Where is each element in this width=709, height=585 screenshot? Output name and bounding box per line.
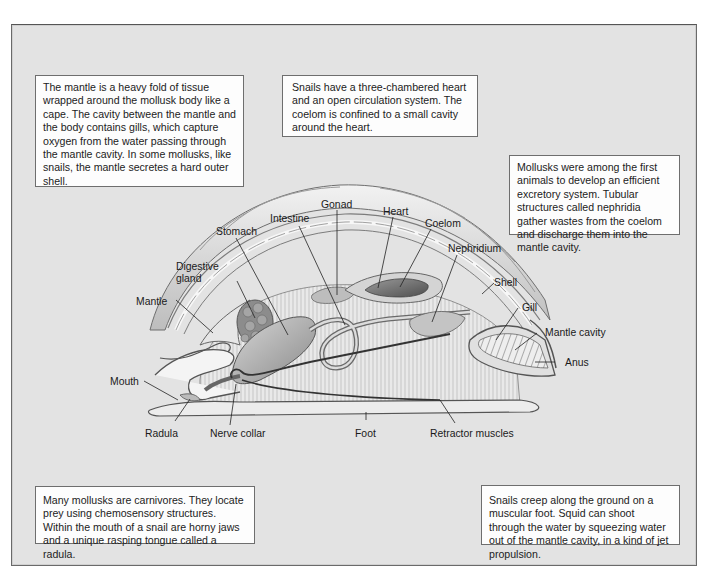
callout-excretory-system: Mollusks were among the first animals to… (509, 155, 680, 235)
label-coelom: Coelom (425, 218, 461, 229)
callout-mantle: The mantle is a heavy fold of tissue wra… (35, 75, 244, 187)
label-mantle: Mantle (136, 296, 167, 307)
label-heart: Heart (383, 206, 409, 217)
label-radula: Radula (145, 428, 178, 439)
callout-carnivore-radula: Many mollusks are carnivores. They locat… (35, 486, 255, 544)
callout-heart: Snails have a three-chambered heart and … (282, 75, 478, 137)
label-nerve-collar: Nerve collar (210, 428, 266, 439)
label-gonad: Gonad (321, 199, 352, 210)
label-mantle-cavity: Mantle cavity (545, 327, 606, 338)
label-retractor-muscles: Retractor muscles (430, 428, 514, 439)
label-mouth: Mouth (110, 376, 139, 387)
callout-foot-locomotion: Snails creep along the ground on a muscu… (481, 485, 680, 545)
label-nephridium: Nephridium (448, 243, 501, 254)
label-stomach: Stomach (216, 226, 257, 237)
label-intestine: Intestine (270, 213, 310, 224)
label-digestive-gland-2: gland (176, 273, 202, 284)
label-gill: Gill (522, 302, 537, 313)
label-shell: Shell (494, 277, 517, 288)
label-foot: Foot (355, 428, 376, 439)
label-digestive-gland-1: Digestive (176, 261, 219, 272)
label-anus: Anus (565, 357, 589, 368)
